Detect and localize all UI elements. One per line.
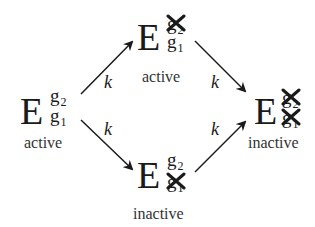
substituent-lower: g1 [167,32,184,54]
strike-x-icon [281,88,301,106]
state-label: inactive [248,135,299,151]
rate-label-start-bottom: k [104,120,112,138]
rate-label-bottom-end: k [211,120,219,138]
reaction-diagram: k k k k E g2 g1 active E g2 g1 active E … [0,0,315,227]
enzyme-symbol: E [254,92,277,130]
rate-label-top-end: k [211,73,219,91]
substituent-upper: g2 [167,150,184,172]
strike-x-icon [281,108,301,126]
state-label: active [24,135,62,151]
enzyme-symbol: E [20,92,43,130]
enzyme-symbol: E [137,18,160,56]
strike-x-icon [166,172,186,190]
enzyme-symbol: E [137,156,160,194]
strike-x-icon [166,14,186,32]
arrow-bottom-to-end [195,122,245,172]
state-label: active [142,69,180,85]
rate-label-start-top: k [104,73,112,91]
substituent-lower: g1 [50,106,67,128]
arrow-top-to-end [195,41,245,91]
state-label: inactive [133,206,184,222]
